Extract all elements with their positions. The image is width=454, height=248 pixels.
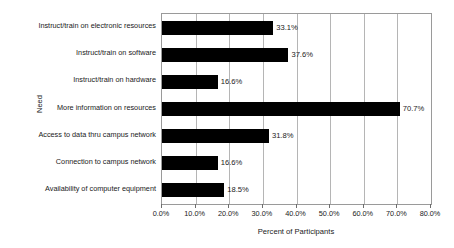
x-axis-title: Percent of Participants: [161, 226, 431, 237]
x-tick-mark: [195, 204, 196, 208]
bar: [162, 183, 224, 197]
category-label: Availability of computer equipment: [38, 185, 156, 194]
bar: [162, 102, 400, 116]
bar-value-label: 70.7%: [400, 102, 425, 116]
x-tick-mark: [430, 204, 431, 208]
x-axis-tick-labels: 0.0%10.0%20.0%30.0%40.0%50.0%60.0%70.0%8…: [0, 209, 454, 221]
bar-chart: Need Instruct/train on electronic resour…: [0, 0, 454, 248]
x-tick-mark: [363, 204, 364, 208]
bar: [162, 75, 218, 89]
x-tick-mark: [396, 204, 397, 208]
bar: [162, 156, 218, 170]
category-label: Connection to campus network: [38, 158, 156, 167]
bars-layer: 33.1%37.6%16.6%70.7%31.8%16.6%18.5%: [162, 14, 431, 204]
category-label-column: Instruct/train on electronic resourcesIn…: [38, 13, 159, 203]
bar: [162, 48, 288, 62]
bar-value-label: 18.5%: [224, 183, 249, 197]
x-tick-mark: [262, 204, 263, 208]
category-label: Instruct/train on software: [38, 49, 156, 58]
x-tick-mark: [228, 204, 229, 208]
bar-value-label: 16.6%: [218, 156, 243, 170]
bar: [162, 129, 269, 143]
bar-value-label: 16.6%: [218, 75, 243, 89]
bar-value-label: 31.8%: [269, 129, 294, 143]
bar-value-label: 33.1%: [273, 21, 298, 35]
x-tick-mark: [329, 204, 330, 208]
category-label: Instruct/train on electronic resources: [38, 22, 156, 31]
plot-area: 33.1%37.6%16.6%70.7%31.8%16.6%18.5%: [161, 13, 432, 205]
bar: [162, 21, 273, 35]
category-label: More information on resources: [38, 104, 156, 113]
x-tick-label: 80.0%: [407, 209, 453, 219]
x-tick-mark: [296, 204, 297, 208]
bar-value-label: 37.6%: [288, 48, 313, 62]
x-tick-mark: [161, 204, 162, 208]
category-label: Access to data thru campus network: [38, 131, 156, 140]
category-label: Instruct/train on hardware: [38, 76, 156, 85]
